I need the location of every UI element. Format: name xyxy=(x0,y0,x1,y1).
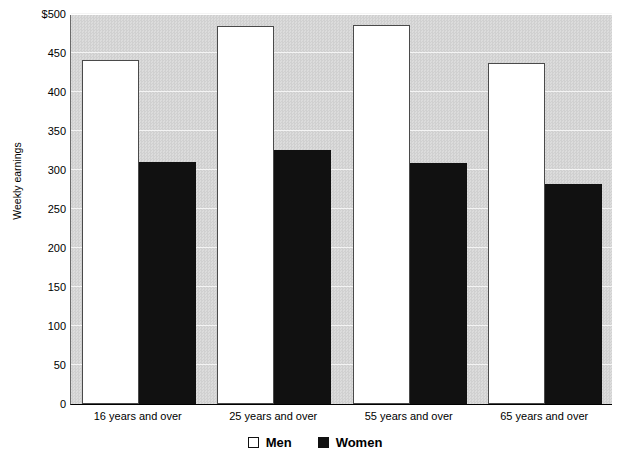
x-axis-tick: 65 years and over xyxy=(477,410,613,422)
y-axis-tick: 150 xyxy=(18,282,66,293)
legend-label: Women xyxy=(336,436,383,449)
bar-group xyxy=(488,15,602,404)
bar-men xyxy=(217,26,274,404)
bar-group xyxy=(353,15,467,404)
y-axis-tick: 50 xyxy=(18,360,66,371)
y-axis-tick: 0 xyxy=(18,399,66,410)
chart-title-sliver xyxy=(0,0,630,4)
y-axis-tick: 450 xyxy=(18,48,66,59)
legend-label: Men xyxy=(266,436,292,449)
chart-legend: MenWomen xyxy=(0,436,630,449)
bar-women xyxy=(410,163,467,404)
y-axis-tick: 200 xyxy=(18,243,66,254)
y-axis-tick: 100 xyxy=(18,321,66,332)
bar-men xyxy=(82,60,139,404)
y-axis-tick: $500 xyxy=(18,9,66,20)
x-axis-tick-labels: 16 years and over25 years and over55 yea… xyxy=(70,410,612,430)
plot-area xyxy=(70,15,612,405)
gridline xyxy=(71,13,612,14)
y-axis-tick: 300 xyxy=(18,165,66,176)
open-square-swatch xyxy=(248,437,259,448)
y-axis-tick: 400 xyxy=(18,87,66,98)
filled-square-swatch xyxy=(318,437,329,448)
bar-group xyxy=(217,15,331,404)
bar-women xyxy=(545,184,602,404)
x-axis-tick: 16 years and over xyxy=(70,410,206,422)
bar-group xyxy=(82,15,196,404)
legend-item-women[interactable]: Women xyxy=(318,436,383,449)
bar-women xyxy=(274,150,331,404)
legend-item-men[interactable]: Men xyxy=(248,436,292,449)
bar-men xyxy=(353,25,410,404)
x-axis-tick: 25 years and over xyxy=(206,410,342,422)
bar-women xyxy=(139,162,196,404)
y-axis-tick: 350 xyxy=(18,126,66,137)
bar-chart: Weekly earnings $50045040035030025020015… xyxy=(0,0,630,464)
bar-men xyxy=(488,63,545,404)
y-axis-tick-labels: $500450400350300250200150100500 xyxy=(14,0,66,464)
x-axis-tick: 55 years and over xyxy=(341,410,477,422)
y-axis-tick: 250 xyxy=(18,204,66,215)
